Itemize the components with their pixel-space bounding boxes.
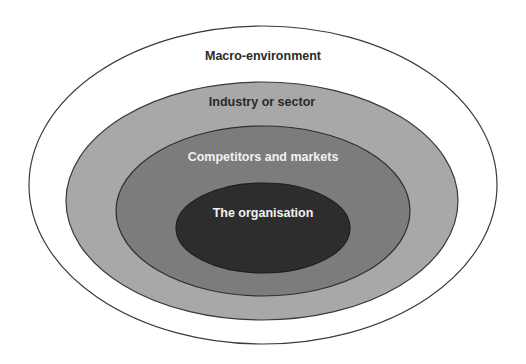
organisation-layer: The organisation bbox=[176, 183, 350, 273]
organisation-ellipse bbox=[176, 183, 350, 273]
macro-environment-label: Macro-environment bbox=[205, 49, 322, 63]
industry-label: Industry or sector bbox=[209, 95, 315, 109]
environment-layers-diagram: Macro-environment Industry or sector Com… bbox=[0, 0, 526, 364]
organisation-label: The organisation bbox=[213, 206, 314, 220]
competitors-label: Competitors and markets bbox=[188, 150, 339, 164]
